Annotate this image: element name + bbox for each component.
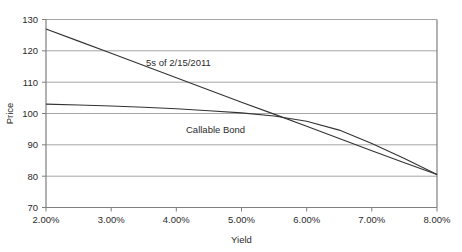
x-tick-label-8: 8.00% xyxy=(424,214,451,225)
x-axis-title: Yield xyxy=(231,234,252,245)
chart-screenshot: 130 120 110 100 90 80 70 2.00% 3.00% 4.0… xyxy=(0,0,462,252)
y-tick-label-80: 80 xyxy=(27,171,38,182)
y-axis-title: Price xyxy=(4,103,15,125)
y-tick-label-70: 70 xyxy=(27,202,38,213)
y-tick-label-100: 100 xyxy=(22,108,38,119)
x-tick-label-2: 2.00% xyxy=(33,214,60,225)
y-tick-label-130: 130 xyxy=(22,14,38,25)
x-tick-label-5: 5.00% xyxy=(228,214,255,225)
y-tick-label-120: 120 xyxy=(22,45,38,56)
y-tick-label-90: 90 xyxy=(27,139,38,150)
x-tick-label-6: 6.00% xyxy=(293,214,320,225)
series-annotation-bullet-bond: 5s of 2/15/2011 xyxy=(146,57,211,68)
price-yield-chart: 130 120 110 100 90 80 70 2.00% 3.00% 4.0… xyxy=(0,0,462,252)
series-annotation-callable-bond: Callable Bond xyxy=(186,124,245,135)
x-tick-label-7: 7.00% xyxy=(358,214,385,225)
x-tick-label-3: 3.00% xyxy=(98,214,125,225)
x-tick-label-4: 4.00% xyxy=(163,214,190,225)
y-tick-label-110: 110 xyxy=(23,77,38,88)
